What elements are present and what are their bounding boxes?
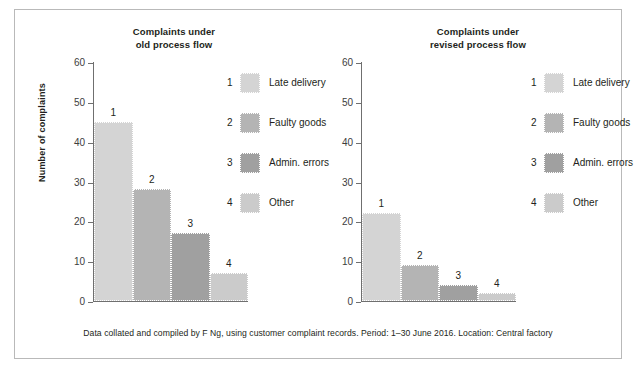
bar-group-revised: 1234 [362, 62, 516, 301]
y-tick-mark [88, 143, 93, 144]
y-tick-label: 30 [342, 178, 353, 188]
legend-swatch-icon [240, 153, 260, 173]
legend-old: 1Late delivery2Faulty goods3Admin. error… [227, 72, 329, 232]
y-tick-label: 20 [342, 217, 353, 227]
y-tick-mark [88, 262, 93, 263]
bar[interactable]: 3 [439, 285, 478, 301]
bar-value-label: 2 [134, 175, 171, 185]
bar-slot: 2 [133, 62, 172, 301]
bar-slot: 1 [94, 62, 133, 301]
legend-swatch-icon [544, 113, 564, 133]
legend-item-label: Admin. errors [269, 158, 329, 168]
legend-item-label: Faulty goods [269, 118, 326, 128]
legend-swatch-icon [240, 113, 260, 133]
y-tick-mark [356, 63, 361, 64]
legend-item[interactable]: 2Faulty goods [227, 112, 329, 134]
y-tick-mark [88, 302, 93, 303]
x-axis-line [361, 301, 516, 302]
y-tick-mark [356, 222, 361, 223]
y-axis-label: Number of complaints [37, 83, 47, 182]
legend-item-number: 2 [227, 118, 240, 128]
chart-title-old: Complaints under old process flow [15, 26, 333, 51]
bar[interactable]: 3 [171, 233, 210, 301]
bar[interactable]: 2 [133, 189, 172, 301]
bar[interactable]: 1 [94, 122, 133, 301]
chart-panel-revised-process-flow: Complaints under revised process flow 01… [333, 10, 623, 320]
plot-area-revised: 0102030405060 1234 [361, 62, 516, 302]
bar-slot: 2 [401, 62, 440, 301]
y-tick-label: 30 [74, 178, 85, 188]
legend-swatch-icon [544, 73, 564, 93]
legend-item[interactable]: 4Other [531, 192, 633, 214]
bar[interactable]: 2 [401, 265, 440, 301]
y-tick-mark [356, 262, 361, 263]
bar-slot: 4 [478, 62, 517, 301]
legend-item-number: 1 [227, 78, 240, 88]
y-tick-label: 0 [347, 297, 353, 307]
bar[interactable]: 1 [362, 213, 401, 301]
legend-item[interactable]: 3Admin. errors [531, 152, 633, 174]
chart-title-revised: Complaints under revised process flow [333, 26, 623, 51]
bar-value-label: 3 [440, 271, 477, 281]
y-tick-label: 50 [342, 98, 353, 108]
legend-revised: 1Late delivery2Faulty goods3Admin. error… [531, 72, 633, 232]
legend-item-number: 3 [531, 158, 544, 168]
y-tick-label: 50 [74, 98, 85, 108]
bar-slot: 3 [439, 62, 478, 301]
figure-frame: Complaints under old process flow Number… [14, 9, 622, 359]
y-tick-label: 10 [342, 257, 353, 267]
bar-value-label: 1 [363, 199, 400, 209]
bar-group-old: 1234 [94, 62, 248, 301]
y-tick-label: 40 [342, 138, 353, 148]
figure-caption: Data collated and compiled by F Ng, usin… [15, 328, 621, 339]
bar-value-label: 1 [95, 108, 132, 118]
y-tick-mark [88, 103, 93, 104]
bar-value-label: 2 [402, 251, 439, 261]
legend-item[interactable]: 1Late delivery [531, 72, 633, 94]
chart-title-line1: Complaints under [333, 26, 623, 39]
bar-value-label: 4 [479, 279, 516, 289]
bar-value-label: 3 [172, 219, 209, 229]
chart-title-line1: Complaints under [15, 26, 333, 39]
x-axis-line [93, 301, 248, 302]
legend-swatch-icon [240, 73, 260, 93]
chart-title-line2: old process flow [15, 39, 333, 52]
y-tick-label: 40 [74, 138, 85, 148]
bar[interactable]: 4 [210, 273, 249, 301]
legend-item[interactable]: 1Late delivery [227, 72, 329, 94]
legend-swatch-icon [544, 193, 564, 213]
legend-item-number: 2 [531, 118, 544, 128]
legend-item-label: Faulty goods [573, 118, 630, 128]
y-tick-label: 10 [74, 257, 85, 267]
legend-item-number: 1 [531, 78, 544, 88]
legend-item-number: 4 [531, 198, 544, 208]
legend-item-label: Admin. errors [573, 158, 633, 168]
y-tick-mark [356, 143, 361, 144]
plot-area-old: 0102030405060 1234 [93, 62, 248, 302]
legend-swatch-icon [544, 153, 564, 173]
y-tick-mark [88, 63, 93, 64]
legend-item[interactable]: 4Other [227, 192, 329, 214]
chart-panel-old-process-flow: Complaints under old process flow Number… [15, 10, 333, 320]
y-tick-mark [356, 302, 361, 303]
legend-item[interactable]: 3Admin. errors [227, 152, 329, 174]
y-tick-mark [88, 222, 93, 223]
legend-swatch-icon [240, 193, 260, 213]
legend-item-label: Late delivery [269, 78, 326, 88]
legend-item-number: 3 [227, 158, 240, 168]
bar[interactable]: 4 [478, 293, 517, 301]
legend-item-label: Late delivery [573, 78, 630, 88]
bar-slot: 3 [171, 62, 210, 301]
legend-item-label: Other [269, 198, 294, 208]
chart-title-line2: revised process flow [333, 39, 623, 52]
legend-item[interactable]: 2Faulty goods [531, 112, 633, 134]
y-tick-mark [356, 103, 361, 104]
y-tick-label: 20 [74, 217, 85, 227]
bar-value-label: 4 [211, 259, 248, 269]
y-tick-mark [356, 183, 361, 184]
y-tick-mark [88, 183, 93, 184]
legend-item-label: Other [573, 198, 598, 208]
legend-item-number: 4 [227, 198, 240, 208]
bar-slot: 1 [362, 62, 401, 301]
y-tick-label: 60 [74, 58, 85, 68]
